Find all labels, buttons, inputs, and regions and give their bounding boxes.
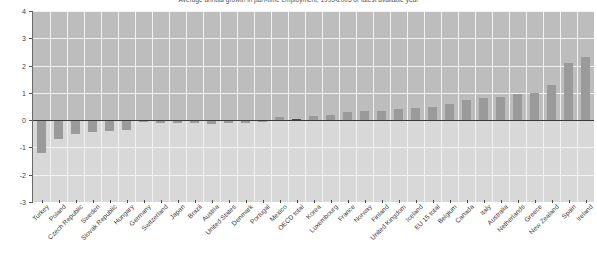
gridline-vertical <box>441 11 442 202</box>
x-axis: TurkeyPolandCzech RepublicSwedenSlovak R… <box>33 203 594 264</box>
y-tick-label: 3 <box>22 35 26 42</box>
y-tick-label: -2 <box>20 171 26 178</box>
x-tick-mark <box>535 200 536 203</box>
bar-finland <box>377 111 387 121</box>
bar-canada <box>462 100 472 120</box>
gridline-vertical <box>84 11 85 202</box>
gridline-vertical <box>356 11 357 202</box>
gridline-vertical <box>424 11 425 202</box>
bar-australia <box>496 97 506 120</box>
gridline-vertical <box>492 11 493 202</box>
x-tick-mark <box>501 200 502 203</box>
bar-united-kingdom <box>394 109 404 120</box>
bar-belgium <box>445 104 455 120</box>
gridline-vertical <box>169 11 170 202</box>
y-tick-label: -3 <box>20 199 26 206</box>
bar-norway <box>360 111 370 121</box>
gridline-vertical <box>254 11 255 202</box>
gridline-vertical <box>135 11 136 202</box>
x-tick-mark <box>178 200 179 203</box>
chart-container: Average annual growth in part-time emplo… <box>0 0 597 264</box>
x-tick-mark <box>433 200 434 203</box>
bar-hungary <box>122 120 132 130</box>
bar-slovak-republic <box>105 120 115 131</box>
y-tick-label: 2 <box>22 62 26 69</box>
gridline-vertical <box>118 11 119 202</box>
x-tick-mark <box>484 200 485 203</box>
gridline-vertical <box>390 11 391 202</box>
y-axis: 43210-1-2-3 <box>0 11 33 202</box>
x-tick-mark <box>212 200 213 203</box>
gridline-vertical <box>50 11 51 202</box>
x-tick-mark <box>416 200 417 203</box>
y-tick-label: 4 <box>22 8 26 15</box>
x-tick-mark <box>518 200 519 203</box>
y-tick-label: -1 <box>20 144 26 151</box>
gridline-vertical <box>322 11 323 202</box>
x-tick-mark <box>263 200 264 203</box>
gridline-vertical <box>509 11 510 202</box>
x-tick-mark <box>399 200 400 203</box>
x-tick-mark <box>586 200 587 203</box>
bar-netherlands <box>513 94 523 120</box>
x-tick-mark <box>382 200 383 203</box>
gridline-vertical <box>560 11 561 202</box>
gridline-vertical <box>271 11 272 202</box>
x-tick-mark <box>314 200 315 203</box>
x-tick-mark <box>569 200 570 203</box>
bar-turkey <box>37 120 47 153</box>
x-tick-label: Ireland <box>574 203 593 222</box>
gridline-vertical <box>203 11 204 202</box>
bar-italy <box>479 98 489 120</box>
gridline-vertical <box>220 11 221 202</box>
bar-spain <box>564 63 574 120</box>
bar-eu-15-total <box>428 107 438 121</box>
bar-new-zealand <box>547 85 557 120</box>
x-tick-mark <box>93 200 94 203</box>
gridline-vertical <box>577 11 578 202</box>
gridline-vertical <box>526 11 527 202</box>
x-tick-mark <box>552 200 553 203</box>
x-tick-mark <box>450 200 451 203</box>
bar-greece <box>530 93 540 120</box>
zero-baseline <box>33 120 594 121</box>
chart-title: Average annual growth in part-time emplo… <box>0 0 597 5</box>
x-tick-mark <box>110 200 111 203</box>
gridline-vertical <box>101 11 102 202</box>
x-tick-mark <box>331 200 332 203</box>
gridline-vertical <box>237 11 238 202</box>
gridline-vertical <box>339 11 340 202</box>
bar-czech-republic <box>71 120 81 134</box>
gridline-vertical <box>543 11 544 202</box>
bar-ireland <box>581 57 591 120</box>
y-tick-label: 1 <box>22 89 26 96</box>
gridline-vertical <box>407 11 408 202</box>
x-tick-mark <box>365 200 366 203</box>
x-tick-mark <box>229 200 230 203</box>
gridline-vertical <box>458 11 459 202</box>
gridline-vertical <box>288 11 289 202</box>
gridline-vertical <box>152 11 153 202</box>
x-tick-mark <box>348 200 349 203</box>
x-tick-mark <box>42 200 43 203</box>
gridline-vertical <box>305 11 306 202</box>
gridline-vertical <box>373 11 374 202</box>
bar-poland <box>54 120 64 139</box>
y-tick-label: 0 <box>22 117 26 124</box>
plot-area <box>33 11 594 202</box>
x-tick-mark <box>297 200 298 203</box>
x-tick-label: Japan <box>168 203 186 221</box>
x-tick-label: Italy <box>478 203 492 217</box>
x-tick-mark <box>127 200 128 203</box>
gridline-vertical <box>186 11 187 202</box>
bar-iceland <box>411 108 421 120</box>
bar-sweden <box>88 120 98 132</box>
x-tick-mark <box>59 200 60 203</box>
gridline-vertical <box>67 11 68 202</box>
x-tick-mark <box>144 200 145 203</box>
x-tick-mark <box>246 200 247 203</box>
x-tick-mark <box>76 200 77 203</box>
gridline-vertical <box>475 11 476 202</box>
x-tick-mark <box>467 200 468 203</box>
x-tick-mark <box>161 200 162 203</box>
